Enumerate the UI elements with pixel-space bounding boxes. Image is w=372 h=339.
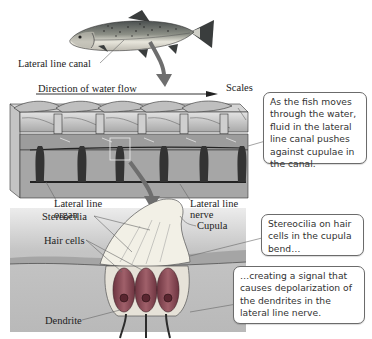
label-cupula: Cupula <box>197 220 227 231</box>
label-direction-of-water-flow: Direction of water flow <box>38 83 137 94</box>
hair-cells <box>113 268 179 312</box>
label-lateral-line-nerve-line2: nerve <box>190 209 213 220</box>
callout-stereocilia-bend: Stereocilia on hair cells in the cupula … <box>261 214 364 256</box>
callout-fluid-pushes-cupulae: As the fish moves through the water, flu… <box>263 92 367 164</box>
label-lateral-line-nerve-line1: Lateral line <box>190 198 238 209</box>
label-scales: Scales <box>226 82 253 93</box>
label-lateral-line-canal: Lateral line canal <box>18 58 91 69</box>
label-hair-cells: Hair cells <box>44 235 85 246</box>
fish-drawing <box>70 10 214 58</box>
callout-depolarization: …creating a signal that causes depolariz… <box>233 266 365 324</box>
canal-block <box>10 101 248 198</box>
direction-arrowhead <box>206 91 218 97</box>
label-dendrite: Dendrite <box>45 315 82 326</box>
label-stereocilia: Stereocilia <box>42 211 87 222</box>
label-lateral-line-organ-line1: Lateral line <box>54 198 102 209</box>
